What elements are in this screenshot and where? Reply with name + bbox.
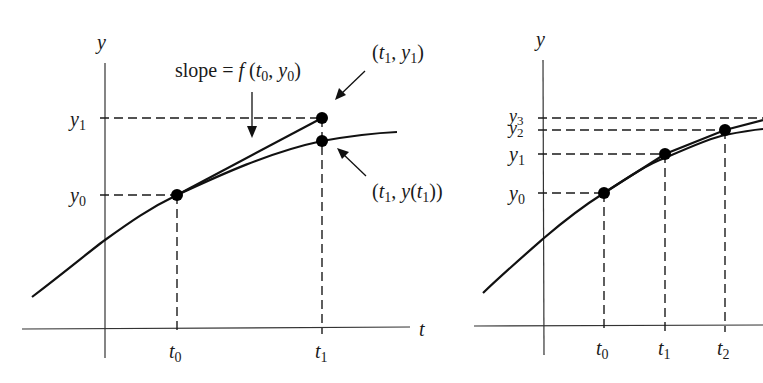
left-y-axis-label: y bbox=[95, 31, 106, 54]
left-point-t1-yt1 bbox=[316, 135, 328, 147]
right-y0-tick-label: y0 bbox=[507, 182, 525, 207]
right-y-axis bbox=[543, 60, 544, 355]
left-y1-tick-label: y1 bbox=[68, 108, 86, 133]
right-t2-tick-label: t2 bbox=[717, 337, 730, 362]
left-t-axis-label: t bbox=[419, 318, 425, 340]
exact-point-annotation: (t1, y(t1)) bbox=[372, 180, 443, 205]
euler-method-diagram: y t y1 y0 t0 t1 slope = f (t0, y0) bbox=[0, 0, 763, 383]
left-point-t0-y0 bbox=[171, 189, 183, 201]
left-panel: y t y1 y0 t0 t1 slope = f (t0, y0) bbox=[22, 31, 443, 365]
euler-point-annotation: (t1, y1) bbox=[372, 41, 424, 66]
left-t1-tick-label: t1 bbox=[315, 340, 328, 365]
right-y1-tick-label: y1 bbox=[507, 143, 525, 168]
right-point-2 bbox=[719, 124, 731, 136]
left-t0-tick-label: t0 bbox=[169, 340, 182, 365]
slope-arrow-icon bbox=[247, 92, 257, 138]
exact-point-arrow-icon bbox=[337, 148, 366, 176]
right-t0-tick-label: t0 bbox=[596, 337, 609, 362]
right-t-axis bbox=[474, 325, 763, 326]
slope-annotation: slope = f (t0, y0) bbox=[175, 59, 301, 84]
left-point-t1-y1 bbox=[316, 112, 328, 124]
right-point-0 bbox=[598, 187, 610, 199]
right-point-1 bbox=[659, 148, 671, 160]
left-y0-tick-label: y0 bbox=[68, 184, 86, 209]
right-y-axis-label: y bbox=[534, 28, 545, 51]
right-euler-polyline bbox=[604, 120, 763, 193]
left-t-axis bbox=[22, 327, 410, 329]
right-panel: y y3 y2 y1 y0 t0 t1 t2 bbox=[474, 28, 763, 362]
euler-point-arrow-icon bbox=[335, 71, 365, 100]
right-t1-tick-label: t1 bbox=[658, 337, 671, 362]
